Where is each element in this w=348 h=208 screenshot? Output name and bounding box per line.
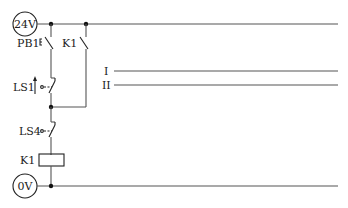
- k1-holding-contact: K1: [62, 24, 88, 107]
- rung-ii: II: [102, 79, 338, 92]
- ls1-label: LS1: [13, 81, 35, 94]
- ladder-diagram: 24V PB1 K1 LS1: [0, 0, 348, 208]
- k1-contact-label: K1: [62, 37, 77, 50]
- supply-24v: 24V: [13, 12, 37, 36]
- rung-i-label: I: [104, 65, 108, 78]
- k1-coil-label: K1: [20, 154, 35, 167]
- supply-0v-label: 0V: [18, 180, 34, 193]
- junction-dot: [49, 184, 53, 188]
- ls4-label: LS4: [19, 125, 41, 138]
- pb1-label: PB1: [17, 37, 39, 50]
- pb1-pushbutton: PB1: [17, 24, 53, 78]
- ls4-limit-switch: LS4: [19, 107, 55, 155]
- supply-0v: 0V: [13, 174, 37, 198]
- rung-i: I: [104, 65, 338, 78]
- rung-ii-label: II: [102, 79, 111, 92]
- supply-24v-label: 24V: [14, 18, 37, 31]
- ls1-limit-switch: LS1: [13, 76, 55, 107]
